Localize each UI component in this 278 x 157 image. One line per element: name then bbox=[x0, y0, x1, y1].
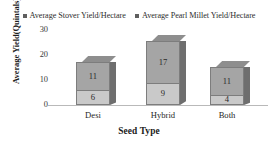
y-axis-tick-10: 10 bbox=[40, 76, 48, 84]
x-axis-title: Seed Type bbox=[0, 126, 278, 136]
bar-value-pearl-millet: 6 bbox=[91, 93, 95, 102]
y-axis-tick-30: 30 bbox=[40, 26, 48, 34]
bar-front-face: 11 6 bbox=[76, 62, 110, 105]
legend-swatch-icon bbox=[135, 14, 139, 18]
plot-area: 30 20 10 0 11 6 17 bbox=[52, 30, 264, 106]
legend-label-pearl-millet: Average Pearl Millet Yield/Hectare bbox=[142, 11, 256, 20]
legend-entry-pearl-millet: Average Pearl Millet Yield/Hectare bbox=[135, 11, 256, 20]
bar-value-stover: 11 bbox=[223, 77, 231, 86]
bar-segment-stover: 11 bbox=[210, 67, 244, 95]
bar-value-stover: 17 bbox=[159, 58, 168, 67]
bar-side-face bbox=[244, 67, 250, 105]
bar-segment-stover: 11 bbox=[76, 62, 110, 90]
legend-label-stover: Average Stover Yield/Hectare bbox=[30, 11, 126, 20]
bar-segment-pearl-millet: 9 bbox=[146, 83, 180, 105]
bar-side-face bbox=[180, 41, 186, 105]
bar-front-face: 17 9 bbox=[146, 41, 180, 105]
y-axis-tick-20: 20 bbox=[40, 51, 48, 59]
chart-legend: Average Stover Yield/Hectare Average Pea… bbox=[0, 9, 278, 22]
bar-front-face: 11 4 bbox=[210, 67, 244, 105]
bar-hybrid: 17 9 bbox=[146, 35, 180, 105]
bar-segment-pearl-millet: 6 bbox=[76, 90, 110, 105]
bar-both: 11 4 bbox=[210, 61, 244, 105]
x-axis-label-both: Both bbox=[197, 110, 257, 120]
x-axis-label-desi: Desi bbox=[63, 110, 123, 120]
chart-figure: Average Stover Yield/Hectare Average Pea… bbox=[0, 0, 278, 157]
bar-desi: 11 6 bbox=[76, 56, 110, 105]
x-axis-baseline bbox=[48, 105, 268, 106]
y-axis-title: Average Yield(Quintals) bbox=[9, 0, 23, 89]
x-axis-labels: Desi Hybrid Both bbox=[52, 110, 264, 122]
bar-segment-stover: 17 bbox=[146, 41, 180, 83]
legend-swatch-icon bbox=[23, 14, 27, 18]
bar-segment-pearl-millet: 4 bbox=[210, 95, 244, 105]
bar-value-pearl-millet: 4 bbox=[225, 95, 229, 104]
legend-entry-stover: Average Stover Yield/Hectare bbox=[23, 11, 126, 20]
x-axis-label-hybrid: Hybrid bbox=[133, 110, 193, 120]
bar-side-face bbox=[110, 62, 116, 105]
bar-value-stover: 11 bbox=[89, 72, 97, 81]
bar-value-pearl-millet: 9 bbox=[161, 89, 165, 98]
